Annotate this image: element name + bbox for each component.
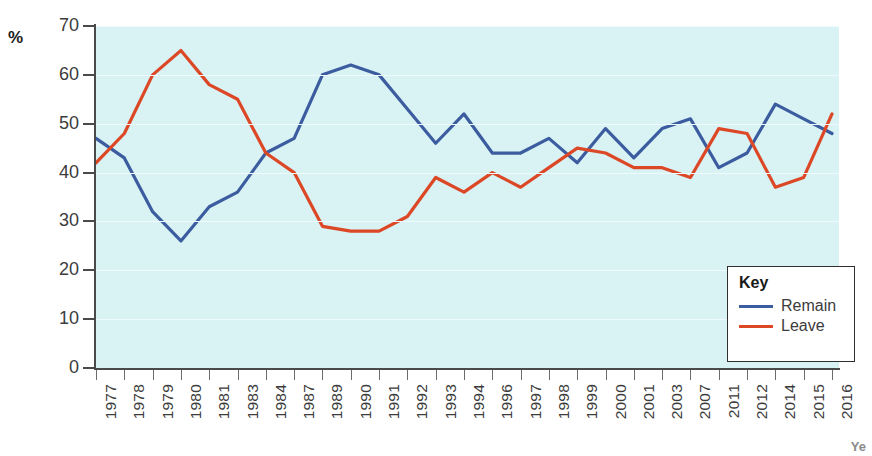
x-axis-tick-label: 1983 [244, 384, 262, 419]
x-axis-tick [690, 370, 691, 380]
series-line-remain [96, 65, 832, 241]
x-axis-tick-label: 2001 [640, 384, 658, 419]
legend-item-leave: Leave [739, 318, 854, 335]
x-axis-tick [634, 370, 635, 380]
x-axis-tick-label: 2012 [753, 384, 771, 419]
x-axis-tick [209, 370, 210, 380]
x-axis-tick-label: 1990 [357, 384, 375, 419]
x-axis-tick [606, 370, 607, 380]
x-axis-tick [521, 370, 522, 380]
chart-figure: % 010203040506070 1977197819791980198119… [0, 0, 872, 456]
x-axis-tick-label: 1993 [442, 384, 460, 419]
gridline [95, 221, 839, 222]
x-axis-tick-label: 2003 [668, 384, 686, 419]
legend-swatch-remain [739, 305, 773, 308]
x-axis-tick-label: 1977 [102, 384, 120, 419]
x-axis-tick [266, 370, 267, 380]
x-axis-tick [322, 370, 323, 380]
x-axis-tick [181, 370, 182, 380]
series-line-leave [96, 50, 832, 231]
x-axis-tick [775, 370, 776, 380]
x-axis-tick [379, 370, 380, 380]
x-axis-tick-label: 2000 [612, 384, 630, 419]
y-axis-tick-label: 0 [33, 357, 79, 378]
legend-label-remain: Remain [781, 298, 836, 315]
y-axis-tick [83, 318, 94, 320]
y-axis-tick [83, 25, 94, 27]
y-axis-tick-label: 60 [33, 64, 79, 85]
legend-item-remain: Remain [739, 298, 854, 315]
gridline [95, 124, 839, 125]
x-axis-tick [96, 370, 97, 380]
x-axis-tick-label: 1981 [215, 384, 233, 419]
x-axis-tick-label: 1987 [300, 384, 318, 419]
x-axis-tick-label: 1996 [498, 384, 516, 419]
x-axis-tick-label: 1979 [159, 384, 177, 419]
x-axis-tick [577, 370, 578, 380]
x-axis-tick [492, 370, 493, 380]
y-axis-tick [83, 172, 94, 174]
legend-swatch-leave [739, 325, 773, 328]
y-axis-line [94, 24, 96, 370]
x-axis-tick-label: 2007 [696, 384, 714, 419]
x-axis-title-partial: Ye [851, 439, 866, 454]
y-axis-tick-label: 50 [33, 113, 79, 134]
x-axis-tick-label: 1998 [555, 384, 573, 419]
y-axis-tick [83, 367, 94, 369]
x-axis-tick-label: 2015 [810, 384, 828, 419]
x-axis-tick-label: 1980 [187, 384, 205, 419]
x-axis-tick [719, 370, 720, 380]
y-axis-tick [83, 220, 94, 222]
x-axis-tick-label: 2016 [838, 384, 856, 419]
x-axis-tick-label: 1989 [328, 384, 346, 419]
y-axis-tick [83, 269, 94, 271]
x-axis-tick [153, 370, 154, 380]
x-axis-tick [747, 370, 748, 380]
y-axis-tick-label: 70 [33, 15, 79, 36]
x-axis-tick-label: 1978 [130, 384, 148, 419]
x-axis-tick-label: 1991 [385, 384, 403, 419]
gridline [95, 26, 839, 27]
x-axis-line [94, 368, 840, 370]
x-axis-tick-label: 1994 [470, 384, 488, 419]
x-axis-tick [351, 370, 352, 380]
x-axis-tick-label: 2011 [725, 384, 743, 418]
x-axis-tick [464, 370, 465, 380]
x-axis-tick [124, 370, 125, 380]
gridline [95, 173, 839, 174]
y-axis-unit-label: % [8, 28, 23, 48]
x-axis-tick [294, 370, 295, 380]
y-axis-tick [83, 123, 94, 125]
y-axis-tick-label: 10 [33, 308, 79, 329]
x-axis-tick-label: 1997 [527, 384, 545, 419]
x-axis-tick [832, 370, 833, 380]
legend-title: Key [739, 274, 854, 292]
y-axis-tick-label: 40 [33, 162, 79, 183]
x-axis-tick-label: 1999 [583, 384, 601, 419]
x-axis-tick [549, 370, 550, 380]
gridline [95, 75, 839, 76]
x-axis-tick [662, 370, 663, 380]
x-axis-tick-label: 1992 [413, 384, 431, 419]
x-axis-tick-label: 1984 [272, 384, 290, 419]
x-axis-tick [407, 370, 408, 380]
x-axis-tick [238, 370, 239, 380]
x-axis-tick-label: 2014 [781, 384, 799, 419]
legend-label-leave: Leave [781, 318, 825, 335]
y-axis-tick-label: 20 [33, 259, 79, 280]
x-axis-tick [804, 370, 805, 380]
x-axis-tick [436, 370, 437, 380]
chart-legend: Key Remain Leave [727, 266, 855, 362]
y-axis-tick [83, 74, 94, 76]
y-axis-tick-label: 30 [33, 210, 79, 231]
